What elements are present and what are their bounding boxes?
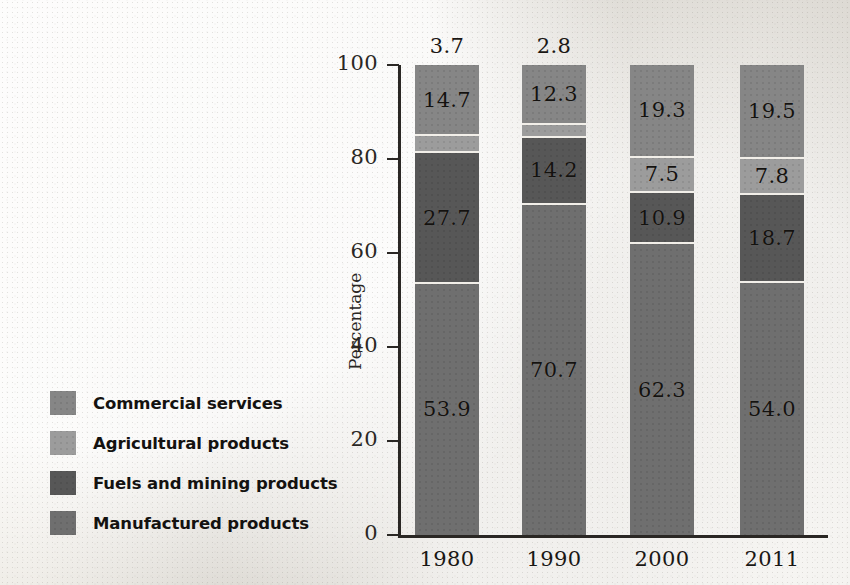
legend-swatch-icon <box>50 391 76 415</box>
segment-value-label: 19.3 <box>638 98 686 122</box>
bar-segment-agricultural-products[interactable]: 7.5 <box>630 156 694 191</box>
bar-segment-fuels-and-mining-products[interactable]: 18.7 <box>740 193 804 281</box>
bar-outside-value-label: 2.8 <box>522 34 586 58</box>
y-axis-tick-mark <box>387 440 399 442</box>
bar-segment-manufactured-products[interactable]: 53.9 <box>415 282 479 535</box>
bar-segment-commercial-services[interactable]: 19.5 <box>740 65 804 157</box>
segment-value-label: 12.3 <box>530 82 578 106</box>
bar-2011[interactable]: 19.57.818.754.0 <box>740 65 804 535</box>
legend-item-label: Agricultural products <box>93 434 289 453</box>
segment-value-label: 14.7 <box>423 88 471 112</box>
segment-value-label: 70.7 <box>530 358 578 382</box>
bar-segment-agricultural-products[interactable] <box>415 134 479 151</box>
y-axis-tick-label: 100 <box>313 51 378 75</box>
segment-value-label: 10.9 <box>638 206 686 230</box>
y-axis-tick-mark <box>387 346 399 348</box>
legend-item-commercial-services[interactable]: Commercial services <box>50 383 337 423</box>
y-axis-tick-mark <box>387 534 399 536</box>
bar-segment-commercial-services[interactable]: 19.3 <box>630 65 694 156</box>
legend-item-manufactured-products[interactable]: Manufactured products <box>50 503 337 543</box>
segment-value-label: 53.9 <box>423 397 471 421</box>
x-axis-line <box>398 535 828 538</box>
segment-value-label: 54.0 <box>748 397 796 421</box>
y-axis-tick-mark <box>387 64 399 66</box>
x-axis-tick-label-2011: 2011 <box>726 547 818 571</box>
legend-item-label: Commercial services <box>93 394 283 413</box>
x-axis-tick-label-1990: 1990 <box>508 547 600 571</box>
chart-legend: Commercial servicesAgricultural products… <box>50 383 337 543</box>
y-axis-tick-mark <box>387 158 399 160</box>
legend-item-label: Manufactured products <box>93 514 309 533</box>
bar-outside-value-label: 3.7 <box>415 34 479 58</box>
bar-segment-manufactured-products[interactable]: 62.3 <box>630 242 694 535</box>
y-axis-line <box>398 65 401 537</box>
bar-segment-commercial-services[interactable]: 14.7 <box>415 65 479 134</box>
bar-segment-agricultural-products[interactable] <box>522 123 586 136</box>
segment-value-label: 62.3 <box>638 378 686 402</box>
y-axis-tick-label: 40 <box>313 333 378 357</box>
bar-segment-fuels-and-mining-products[interactable]: 14.2 <box>522 136 586 203</box>
bar-segment-fuels-and-mining-products[interactable]: 10.9 <box>630 191 694 242</box>
legend-swatch-icon <box>50 511 76 535</box>
bar-1990[interactable]: 12.314.270.7 <box>522 65 586 535</box>
legend-item-label: Fuels and mining products <box>93 474 337 493</box>
legend-swatch-icon <box>50 471 76 495</box>
bar-2000[interactable]: 19.37.510.962.3 <box>630 65 694 535</box>
bar-1980[interactable]: 14.727.753.9 <box>415 65 479 535</box>
legend-swatch-icon <box>50 431 76 455</box>
segment-value-label: 7.5 <box>645 162 679 186</box>
y-axis-tick-label: 80 <box>313 145 378 169</box>
bar-segment-fuels-and-mining-products[interactable]: 27.7 <box>415 151 479 281</box>
legend-item-fuels-and-mining-products[interactable]: Fuels and mining products <box>50 463 337 503</box>
bar-segment-manufactured-products[interactable]: 70.7 <box>522 203 586 535</box>
segment-value-label: 19.5 <box>748 99 796 123</box>
segment-value-label: 14.2 <box>530 158 578 182</box>
bar-segment-manufactured-products[interactable]: 54.0 <box>740 281 804 535</box>
segment-value-label: 7.8 <box>755 164 789 188</box>
y-axis-tick-mark <box>387 252 399 254</box>
segment-value-label: 18.7 <box>748 226 796 250</box>
x-axis-tick-label-1980: 1980 <box>401 547 493 571</box>
x-axis-tick-label-2000: 2000 <box>616 547 708 571</box>
y-axis-tick-label: 60 <box>313 239 378 263</box>
bar-segment-agricultural-products[interactable]: 7.8 <box>740 157 804 194</box>
segment-value-label: 27.7 <box>423 206 471 230</box>
legend-item-agricultural-products[interactable]: Agricultural products <box>50 423 337 463</box>
bar-segment-commercial-services[interactable]: 12.3 <box>522 65 586 123</box>
